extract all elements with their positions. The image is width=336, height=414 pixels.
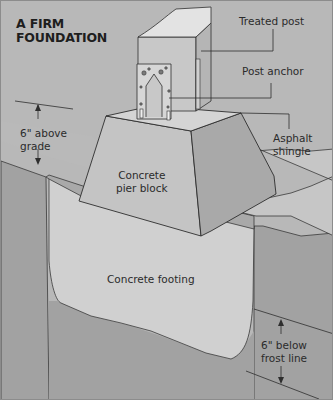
post-top xyxy=(138,7,211,37)
pier-line-1: Concrete xyxy=(116,169,168,182)
arrow-up-icon xyxy=(35,104,41,111)
leader-treated-post xyxy=(201,29,273,51)
foundation-diagram: A FIRM FOUNDATION Treated post Post anch… xyxy=(0,0,333,400)
soil-cut-left xyxy=(1,161,49,400)
label-asphalt-shingle: Asphalt shingle xyxy=(273,132,312,158)
title-line-2: FOUNDATION xyxy=(16,31,107,45)
label-post-anchor: Post anchor xyxy=(242,65,304,78)
label-pier-block: Concrete pier block xyxy=(116,169,168,195)
diagram-title: A FIRM FOUNDATION xyxy=(16,17,107,45)
below-line-2: frost line xyxy=(261,352,307,365)
arrow-down-icon xyxy=(35,158,41,165)
label-above-grade: 6" above grade xyxy=(20,127,67,153)
pier-block-side xyxy=(191,113,276,236)
above-line-2: grade xyxy=(20,140,67,153)
pier-line-2: pier block xyxy=(116,182,168,195)
above-line-1: 6" above xyxy=(20,127,67,140)
label-concrete-footing: Concrete footing xyxy=(107,273,195,286)
title-line-1: A FIRM xyxy=(16,17,107,31)
label-below-frost-line: 6" below frost line xyxy=(261,339,307,365)
label-treated-post: Treated post xyxy=(239,15,304,28)
asphalt-line-1: Asphalt xyxy=(273,132,312,145)
post-anchor-side-flange xyxy=(196,59,200,109)
below-line-1: 6" below xyxy=(261,339,307,352)
asphalt-line-2: shingle xyxy=(273,145,312,158)
